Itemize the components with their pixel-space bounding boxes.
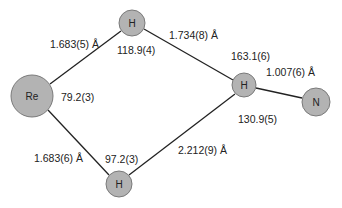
atom-h-bottom: H <box>106 171 132 197</box>
atom-label-h-bottom: H <box>115 179 122 190</box>
atom-label-re: Re <box>26 91 39 102</box>
atom-label-h-top: H <box>128 18 135 29</box>
bond-h-right-n <box>256 88 302 98</box>
bond-length-re-h-top: 1.683(5) Å <box>50 38 99 50</box>
angle-re: 79.2(3) <box>61 91 94 103</box>
bond-length-re-h-bottom: 1.683(6) Å <box>34 152 83 164</box>
atom-h-right: H <box>232 73 256 97</box>
bond-re-h-bottom <box>48 110 109 175</box>
atom-h-top: H <box>119 10 145 36</box>
atom-n: N <box>302 88 330 116</box>
angle-h-bottom: 97.2(3) <box>105 153 138 165</box>
bond-length-h-top-h-right: 1.734(8) Å <box>169 29 218 41</box>
bond-length-h-right-n: 1.007(6) Å <box>266 66 315 78</box>
atom-label-n: N <box>312 97 319 108</box>
molecular-geometry-diagram: Re H H N H 1.683(5) Å 1.683(6) Å 1.734(8… <box>0 0 342 208</box>
bond-length-h-bottom-h-right: 2.212(9) Å <box>178 144 227 156</box>
bond-h-bottom-h-right <box>129 94 235 175</box>
angle-h-right-upper: 163.1(6) <box>231 50 270 62</box>
atom-label-h-right: H <box>240 80 247 91</box>
angle-h-top: 118.9(4) <box>117 44 155 56</box>
angle-h-right-lower: 130.9(5) <box>238 113 277 125</box>
atom-re: Re <box>11 75 53 117</box>
